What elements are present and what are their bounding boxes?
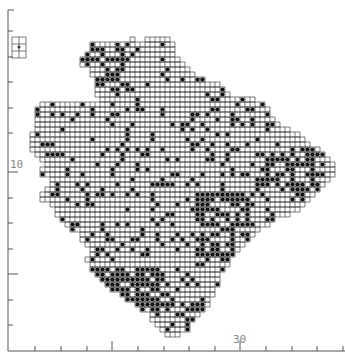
distribution-map — [0, 0, 345, 357]
inset-key — [12, 37, 26, 58]
left-axis-label: 10 — [10, 158, 23, 171]
grid-cells — [30, 37, 335, 337]
bottom-axis-label: 30 — [233, 333, 246, 346]
axes — [8, 10, 345, 351]
